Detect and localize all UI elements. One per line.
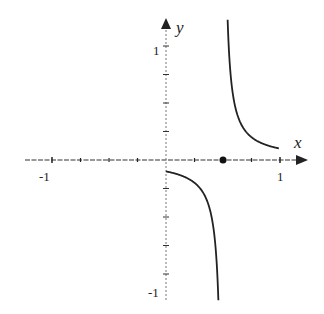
axes (25, 18, 308, 300)
function-plot: x y -1 1 1 -1 (0, 0, 324, 314)
x-tick-label-1: 1 (277, 169, 284, 184)
y-axis-arrow-icon (161, 18, 171, 29)
x-tick-label-neg1: -1 (39, 169, 50, 184)
x-axis-label: x (293, 133, 302, 152)
y-axis-label: y (174, 18, 184, 37)
points (220, 157, 227, 164)
y-tick-label-neg1: -1 (148, 285, 159, 300)
x-axis-arrow-icon (296, 155, 308, 165)
point-marker (220, 157, 227, 164)
y-tick-label-1: 1 (153, 43, 160, 58)
left-branch-curve (166, 171, 218, 300)
right-branch-curve (228, 20, 279, 149)
